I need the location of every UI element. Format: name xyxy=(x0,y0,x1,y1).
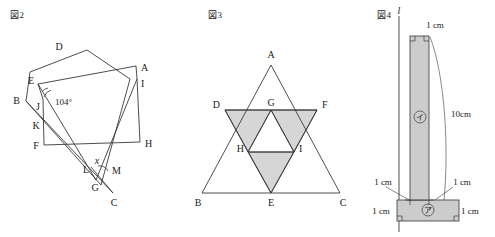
vertex-label-B: B xyxy=(13,95,20,106)
vertex-label-K: K xyxy=(32,120,40,131)
leader-left-base xyxy=(386,187,411,201)
angle-value-x: x xyxy=(94,155,100,166)
vertex-label-I: I xyxy=(299,143,302,154)
part-label-a: ア xyxy=(424,206,432,215)
figure-3-drawing: A D G F H I B E C xyxy=(180,0,365,237)
polygon-outer-2 xyxy=(38,66,140,145)
figure-4-drawing: l 1 cm 10cm 1 cm 1 cm 1 cm 1 cm ア イ xyxy=(365,0,495,237)
vertex-label-A: A xyxy=(141,62,149,73)
vertex-label-C: C xyxy=(111,197,118,208)
vertex-label-H: H xyxy=(237,143,244,154)
vertex-label-E: E xyxy=(28,75,34,86)
vertex-label-E: E xyxy=(268,197,274,208)
axis-label-l: l xyxy=(398,5,401,16)
vertex-label-D: D xyxy=(213,99,220,110)
dimension-curve-stem-height xyxy=(430,37,446,200)
dimension-top-width: 1 cm xyxy=(426,20,444,30)
vertex-label-F: F xyxy=(33,140,39,151)
shaded-triangle-DHG xyxy=(225,110,271,152)
dimension-stem-height: 10cm xyxy=(451,109,471,119)
vertex-label-J: J xyxy=(36,101,40,112)
vertex-label-H: H xyxy=(145,138,152,149)
shaded-triangle-HEI xyxy=(248,152,294,193)
figure-4-panel: 図4 l 1 cm 10cm 1 cm 1 cm xyxy=(365,0,495,237)
figure-2-drawing: D A E B I J K F H L M G C 104° x xyxy=(0,0,180,237)
vertex-label-M: M xyxy=(112,165,121,176)
vertex-label-A: A xyxy=(267,49,275,60)
dimension-left-base: 1 cm xyxy=(374,177,392,187)
dimension-base-height: 1 cm xyxy=(372,206,390,216)
vertex-label-G: G xyxy=(91,182,98,193)
shaded-triangle-GIF xyxy=(271,110,317,152)
figure-2-panel: 図2 D A E B I J K F H L M G C xyxy=(0,0,180,237)
part-label-i: イ xyxy=(416,113,424,122)
line-b-to-c xyxy=(26,101,113,193)
vertex-label-C: C xyxy=(340,197,347,208)
vertex-label-B: B xyxy=(195,197,202,208)
vertex-label-I: I xyxy=(141,78,144,89)
vertex-label-G: G xyxy=(267,97,274,108)
dimension-base-right: 1 cm xyxy=(461,206,479,216)
vertex-label-L: L xyxy=(83,164,89,175)
angle-value-104: 104° xyxy=(55,97,73,107)
dimension-right-base: 1 cm xyxy=(453,177,471,187)
figure-3-panel: 図3 A D G F H I B E C xyxy=(180,0,365,237)
vertex-label-F: F xyxy=(322,99,328,110)
vertex-label-D: D xyxy=(55,41,62,52)
